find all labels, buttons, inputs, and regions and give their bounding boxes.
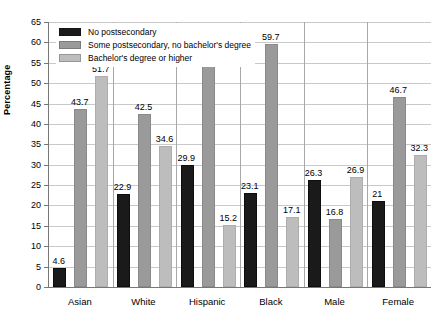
y-axis-tick-label: 35 xyxy=(19,139,41,149)
legend-item-bachelors-or-higher: Bachelor's degree or higher xyxy=(59,51,251,64)
y-axis-tick-mark xyxy=(44,83,48,84)
y-axis-tick-mark xyxy=(44,246,48,247)
legend-swatch-icon-series-3 xyxy=(59,54,81,62)
y-axis-tick-mark xyxy=(44,144,48,145)
x-axis-category-label: White xyxy=(112,296,176,307)
bar-value-label: 59.7 xyxy=(254,32,287,42)
y-axis-tick-label: 10 xyxy=(19,241,41,251)
y-axis-tick-mark xyxy=(44,124,48,125)
bar xyxy=(223,225,236,287)
bar-value-label: 26.9 xyxy=(339,165,372,175)
bar-chart: Percentage No postsecondary Some postsec… xyxy=(0,0,438,327)
y-axis-tick-label: 30 xyxy=(19,160,41,170)
legend-swatch-icon-series-2 xyxy=(59,41,81,49)
bar xyxy=(372,201,385,287)
bar-value-label: 43.7 xyxy=(63,97,96,107)
x-axis-category-label: Black xyxy=(239,296,303,307)
y-axis-tick-mark xyxy=(44,42,48,43)
y-axis-tick-label: 0 xyxy=(19,282,41,292)
legend-label-series-3: Bachelor's degree or higher xyxy=(88,53,192,63)
bar xyxy=(53,268,66,287)
bar xyxy=(74,109,87,287)
bar-value-label: 4.6 xyxy=(42,256,75,266)
y-axis-tick-label: 60 xyxy=(19,37,41,47)
bar xyxy=(393,97,406,287)
y-axis-tick-label: 45 xyxy=(19,99,41,109)
x-axis-category-label: Asian xyxy=(48,296,112,307)
y-axis-title-text: Percentage xyxy=(2,101,12,115)
y-axis-tick-mark xyxy=(44,165,48,166)
bar-value-label: 26.3 xyxy=(297,168,330,178)
y-axis-tick-label: 50 xyxy=(19,78,41,88)
bar xyxy=(159,146,172,287)
y-axis-tick-label: 5 xyxy=(19,262,41,272)
y-axis-tick-label: 65 xyxy=(19,17,41,27)
y-axis-tick-mark xyxy=(44,287,48,288)
y-axis-tick-label: 15 xyxy=(19,221,41,231)
bar xyxy=(244,193,257,287)
y-axis-tick-mark xyxy=(44,226,48,227)
bar-value-label: 34.6 xyxy=(148,134,181,144)
bar-value-label: 16.8 xyxy=(318,207,351,217)
y-axis-tick-label: 20 xyxy=(19,200,41,210)
legend-item-no-postsecondary: No postsecondary xyxy=(59,25,251,38)
bar-value-label: 46.7 xyxy=(382,85,415,95)
legend-swatch-icon-series-1 xyxy=(59,28,81,36)
bar-value-label: 17.1 xyxy=(275,205,308,215)
y-axis-tick-label: 40 xyxy=(19,119,41,129)
bar xyxy=(181,165,194,287)
bar xyxy=(286,217,299,287)
bar xyxy=(265,44,278,287)
x-axis-category-label: Female xyxy=(366,296,430,307)
group-divider xyxy=(367,22,368,287)
y-axis-tick-mark xyxy=(44,104,48,105)
legend-label-series-2: Some postsecondary, no bachelor's degree xyxy=(88,40,251,50)
bar xyxy=(117,194,130,287)
y-axis-tick-label: 55 xyxy=(19,58,41,68)
bar-value-label: 15.2 xyxy=(212,213,245,223)
bar xyxy=(414,155,427,287)
bar-value-label: 29.9 xyxy=(170,153,203,163)
y-axis-tick-mark xyxy=(44,205,48,206)
bar-value-label: 23.1 xyxy=(233,181,266,191)
y-axis-tick-mark xyxy=(44,63,48,64)
y-axis-tick-mark xyxy=(44,267,48,268)
bar-value-label: 22.9 xyxy=(106,182,139,192)
bar xyxy=(202,63,215,287)
chart-legend: No postsecondary Some postsecondary, no … xyxy=(56,23,255,67)
y-axis-title: Percentage xyxy=(2,94,12,108)
group-divider xyxy=(304,22,305,287)
legend-item-some-postsecondary: Some postsecondary, no bachelor's degree xyxy=(59,38,251,51)
bar-value-label: 21 xyxy=(361,189,394,199)
x-axis-category-label: Hispanic xyxy=(175,296,239,307)
y-axis-tick-label: 25 xyxy=(19,180,41,190)
bar-value-label: 32.3 xyxy=(403,143,436,153)
bar xyxy=(329,219,342,287)
legend-label-series-1: No postsecondary xyxy=(88,27,157,37)
y-axis-tick-mark xyxy=(44,22,48,23)
bar-value-label: 42.5 xyxy=(127,102,160,112)
x-axis-category-label: Male xyxy=(303,296,367,307)
bar xyxy=(308,180,321,287)
y-axis-tick-mark xyxy=(44,185,48,186)
